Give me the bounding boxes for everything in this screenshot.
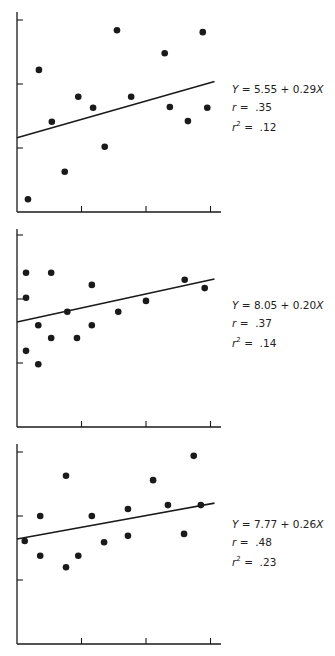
data-point [90, 104, 97, 111]
data-point [74, 335, 81, 342]
data-point [114, 27, 121, 34]
data-point [48, 269, 55, 276]
data-point [35, 322, 42, 329]
data-point [201, 285, 208, 292]
correlation-r: r = .37 [232, 315, 323, 333]
data-point [101, 539, 108, 546]
data-point [36, 67, 43, 74]
regression-stats-2: Y = 8.05 + 0.20X r = .37 r2 = .14 [232, 297, 323, 352]
r-squared: r2 = .14 [232, 332, 323, 352]
data-point [167, 104, 174, 111]
scatter-panel-3: Y = 7.77 + 0.26X r = .48 r2 = .23 [0, 430, 335, 656]
scatter-plot-1 [0, 0, 230, 215]
data-point [64, 309, 71, 316]
scatter-plot-2 [0, 215, 230, 430]
data-point [150, 477, 157, 484]
data-point [63, 564, 70, 571]
data-point [48, 335, 55, 342]
data-point [115, 309, 122, 316]
regression-equation: Y = 5.55 + 0.29X [232, 81, 323, 99]
data-point [63, 472, 70, 479]
data-point [161, 50, 168, 57]
scatter-plot-3 [0, 430, 230, 656]
data-point [165, 502, 172, 509]
data-point [37, 513, 44, 520]
data-point [204, 104, 211, 111]
data-point [181, 277, 188, 284]
data-point [75, 552, 82, 559]
scatter-panel-1: Y = 5.55 + 0.29X r = .35 r2 = .12 [0, 0, 335, 215]
data-point [143, 298, 150, 305]
regression-line [17, 82, 215, 138]
data-point [75, 94, 82, 101]
regression-equation: Y = 8.05 + 0.20X [232, 297, 323, 315]
data-point [23, 294, 30, 301]
data-point [185, 118, 192, 125]
data-point [21, 538, 28, 545]
correlation-r: r = .48 [232, 534, 323, 552]
regression-stats-1: Y = 5.55 + 0.29X r = .35 r2 = .12 [232, 81, 323, 136]
data-point [125, 506, 132, 513]
data-point [128, 94, 135, 101]
data-point [89, 322, 96, 329]
data-point [190, 453, 197, 460]
data-point [49, 118, 56, 125]
regression-equation: Y = 7.77 + 0.26X [232, 516, 323, 534]
scatter-panel-2: Y = 8.05 + 0.20X r = .37 r2 = .14 [0, 215, 335, 430]
data-point [23, 269, 30, 276]
regression-line [17, 279, 215, 322]
data-point [25, 196, 32, 203]
regression-stats-3: Y = 7.77 + 0.26X r = .48 r2 = .23 [232, 516, 323, 571]
r-squared: r2 = .12 [232, 116, 323, 136]
data-point [37, 552, 44, 559]
data-point [89, 282, 96, 289]
data-point [35, 361, 42, 368]
data-point [125, 533, 132, 540]
data-point [101, 143, 108, 150]
correlation-r: r = .35 [232, 99, 323, 117]
data-point [181, 531, 188, 538]
data-point [61, 168, 68, 175]
r-squared: r2 = .23 [232, 551, 323, 571]
data-point [198, 502, 205, 509]
data-point [89, 513, 96, 520]
data-point [199, 29, 206, 36]
data-point [23, 348, 30, 355]
